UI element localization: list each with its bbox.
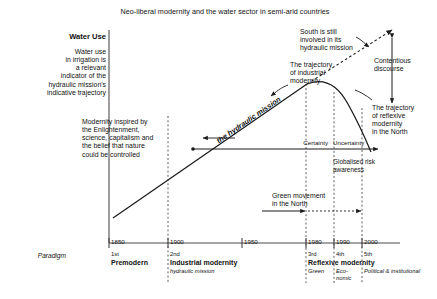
industrial-trajectory-annotation: The trajectory of industrial modernity <box>290 61 350 85</box>
era-name-industrial-modernity: Industrial modernity <box>170 259 237 266</box>
industrial-trajectory-leader <box>271 85 288 96</box>
hydraulic-mission-label: the hydraulic mission <box>215 94 283 145</box>
tick-label-1950: 1950 <box>244 238 258 245</box>
contentious-discourse-annotation: Contentious discourse <box>374 57 432 73</box>
era-number-2: 2nd <box>170 251 180 257</box>
era-sub-green: Green <box>308 268 324 275</box>
era-number-1: 1st <box>111 251 119 257</box>
paradigm-axis-label: Paradigm <box>26 252 66 260</box>
y-axis-title: Water Use <box>30 33 106 42</box>
uncertainty-label: Uncertainty <box>333 139 381 146</box>
y-axis-note: Water use in irrigation is a relevant in… <box>12 48 106 97</box>
reflexive-note-leader <box>355 90 372 100</box>
tick-label-1900: 1900 <box>170 238 184 245</box>
globalised-risk-annotation: Globalised risk awareness <box>333 158 389 173</box>
tick-label-1980: 1980 <box>308 238 322 245</box>
modernity-annotation: Modernity inspired by the Enlightenment,… <box>82 118 190 159</box>
certainty-label: Certainty <box>288 139 328 146</box>
chart-title: Neo-liberal modernity and the water sect… <box>60 8 390 16</box>
reflexive-trajectory-annotation: The trajectory of reflexive modernity in… <box>372 104 434 137</box>
tick-label-1850: 1850 <box>111 238 125 245</box>
tick-label-2000: 2000 <box>364 238 378 245</box>
era-sub-economic: Eco- nomic <box>336 268 362 281</box>
green-movement-annotation: Green movement in the North <box>272 192 338 208</box>
era-number-5: 5th <box>364 251 372 257</box>
tick-label-1990: 1990 <box>336 238 350 245</box>
era-number-4: 4th <box>336 251 344 257</box>
era-name-premodern: Premodern <box>111 259 148 266</box>
south-hydraulic-annotation: South is still involved in its hydraulic… <box>300 28 372 52</box>
era-name-reflexive-modernity: Reflexive modernity <box>308 259 375 266</box>
era-sub-political-institutional: Political & institutional <box>364 268 430 275</box>
figure-container: the hydraulic mission Neo-liberal modern… <box>0 0 437 299</box>
era-number-3: 3rd <box>308 251 317 257</box>
era-sub-hydraulic-mission: hydraulic mission <box>170 268 214 275</box>
